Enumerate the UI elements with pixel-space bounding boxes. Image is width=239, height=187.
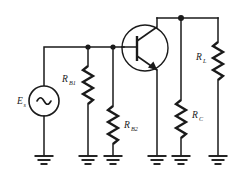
ground-rl <box>209 156 228 164</box>
label-source: E s <box>16 96 27 108</box>
source-label-sub: s <box>24 101 27 108</box>
rb2-label-main: R <box>123 120 130 130</box>
node-base-rb2 <box>110 44 115 49</box>
npn-transistor-symbol <box>122 18 168 155</box>
source-branch <box>29 47 88 155</box>
resistor-rc-zigzag <box>176 100 186 138</box>
ground-emitter <box>148 156 167 164</box>
label-rb1: R B1 <box>61 74 76 86</box>
rb1-label-sub: B1 <box>69 79 76 86</box>
rc-label-sub: C <box>199 115 204 122</box>
label-rc: R C <box>191 110 204 122</box>
transistor-collector-slant <box>137 27 157 41</box>
label-rl: R L <box>195 52 207 64</box>
rb2-label-sub: B2 <box>131 125 138 132</box>
node-collector-top <box>178 15 184 21</box>
rl-label-sub: L <box>202 57 207 64</box>
resistor-rb1-zigzag <box>83 66 93 104</box>
rc-branch <box>176 18 186 155</box>
ground-rc <box>172 156 191 164</box>
resistor-rl-zigzag <box>213 42 223 80</box>
label-rb2: R B2 <box>123 120 138 132</box>
rb1-label-main: R <box>61 74 68 84</box>
rl-branch <box>213 18 223 155</box>
rb1-branch <box>83 47 93 155</box>
circuit-diagram: E s R B1 R B2 R C R L <box>0 0 239 187</box>
rb2-branch <box>108 47 118 155</box>
ground-rb2 <box>104 156 123 164</box>
ground-source <box>35 156 54 164</box>
node-base-rb1 <box>85 44 90 49</box>
transistor-envelope <box>122 25 168 71</box>
ground-rb1 <box>79 156 98 164</box>
resistor-rb2-zigzag <box>108 106 118 144</box>
rc-label-main: R <box>191 110 198 120</box>
rl-label-main: R <box>195 52 202 62</box>
source-label-main: E <box>16 96 23 106</box>
